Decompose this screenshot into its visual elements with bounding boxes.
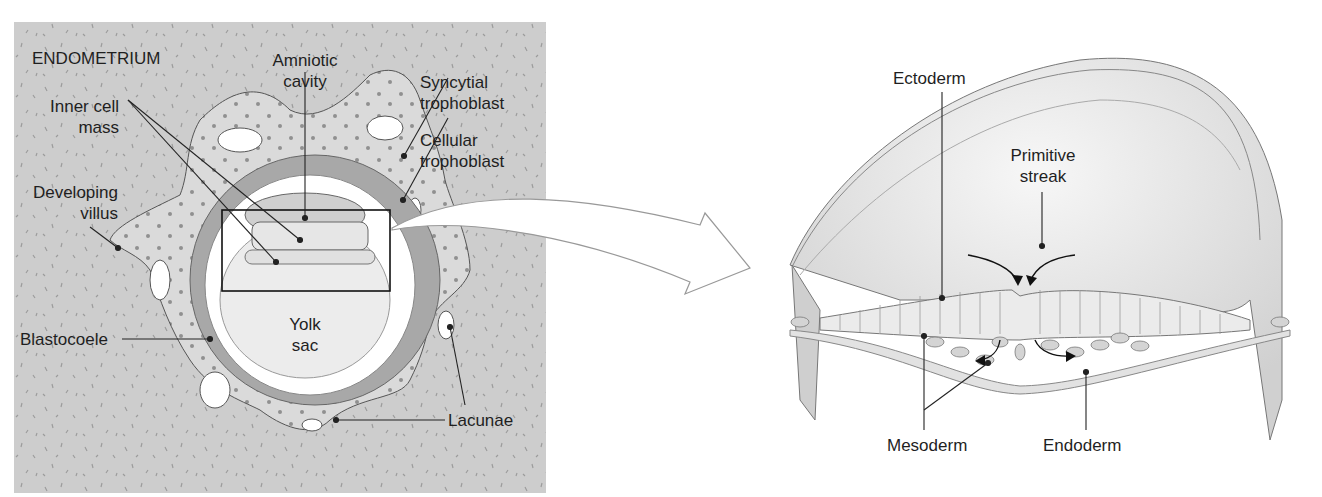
label-line: Inner cell	[20, 96, 119, 117]
label-amniotic-cavity: Amniotic cavity	[255, 50, 355, 92]
diagram-canvas	[0, 0, 1322, 497]
label-line: sac	[270, 335, 340, 356]
endoderm-layer	[790, 330, 1290, 394]
label-line: Syncytial	[420, 72, 504, 93]
label-line: villus	[10, 203, 118, 224]
label-cellular-trophoblast: Cellular trophoblast	[420, 130, 504, 172]
label-line: Primitive	[1003, 145, 1083, 166]
label-line: Yolk	[270, 314, 340, 335]
label-ectoderm: Ectoderm	[893, 68, 966, 89]
label-endometrium: ENDOMETRIUM	[32, 48, 160, 69]
label-lacunae: Lacunae	[448, 410, 513, 431]
label-line: mass	[20, 117, 119, 138]
label-line: Cellular	[420, 130, 504, 151]
label-line: cavity	[255, 71, 355, 92]
label-endoderm: Endoderm	[1043, 435, 1121, 456]
label-syncytial-trophoblast: Syncytial trophoblast	[420, 72, 504, 114]
label-mesoderm: Mesoderm	[887, 435, 967, 456]
label-inner-cell-mass: Inner cell mass	[20, 96, 119, 138]
label-line: trophoblast	[420, 93, 504, 114]
label-developing-villus: Developing villus	[10, 182, 118, 224]
label-line: trophoblast	[420, 151, 504, 172]
label-line: Amniotic	[255, 50, 355, 71]
label-line: Developing	[10, 182, 118, 203]
label-blastocoele: Blastocoele	[20, 329, 108, 350]
label-primitive-streak: Primitive streak	[1003, 145, 1083, 187]
label-yolk-sac: Yolk sac	[270, 314, 340, 356]
embryonic-disc-panel	[790, 58, 1290, 440]
label-line: streak	[1003, 166, 1083, 187]
